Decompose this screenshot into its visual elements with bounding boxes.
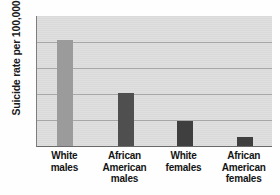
bar xyxy=(237,137,253,146)
bar xyxy=(118,93,134,146)
suicide-rate-bar-chart: Suicide rate per 100,000 510152025 White… xyxy=(0,0,280,195)
y-axis-title: Suicide rate per 100,000 xyxy=(10,0,22,132)
x-axis-category-label: AfricanAmericanmales xyxy=(95,150,154,185)
x-axis-category-label: Whitefemales xyxy=(154,150,213,173)
x-axis-labels: WhitemalesAfricanAmericanmalesWhitefemal… xyxy=(36,150,272,195)
x-axis-category-label: AfricanAmericanfemales xyxy=(214,150,273,185)
bar xyxy=(177,121,193,146)
x-axis-category-label: Whitemales xyxy=(35,150,94,173)
bar xyxy=(57,40,73,146)
plot-area: 510152025 xyxy=(36,16,272,147)
